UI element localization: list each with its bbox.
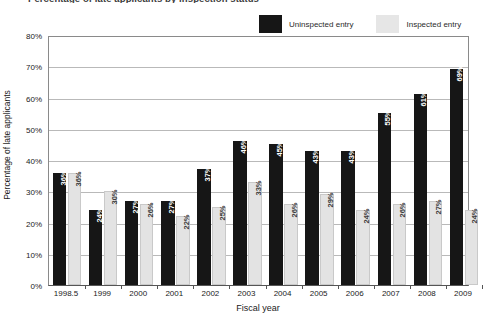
bar-value-label: 37% <box>204 167 212 182</box>
bar-value-label: 36% <box>60 170 68 185</box>
bar-uninspected: 27% <box>125 201 139 285</box>
bar-uninspected: 27% <box>161 201 175 285</box>
bar-value-label: 26% <box>147 202 155 217</box>
x-axis-tick-label: 2005 <box>310 289 328 298</box>
bar-inspected: 36% <box>68 173 82 286</box>
bar-value-label: 24% <box>471 208 479 223</box>
bar-value-label: 29% <box>327 193 335 208</box>
x-axis-tick-label: 2003 <box>238 289 256 298</box>
bar-inspected: 24% <box>465 210 479 285</box>
bars-layer: 36%36%24%30%27%26%27%22%37%25%46%33%45%2… <box>49 37 468 285</box>
bar-inspected: 22% <box>176 216 190 285</box>
bar-inspected: 25% <box>212 207 226 285</box>
legend-item-uninspected: Uninspected entry <box>259 14 353 34</box>
bar-uninspected: 24% <box>89 210 103 285</box>
bar-value-label: 33% <box>255 180 263 195</box>
bar-value-label: 30% <box>111 190 119 205</box>
bar-uninspected: 36% <box>53 173 67 286</box>
x-axis-tick-label: 2002 <box>201 289 219 298</box>
bar-inspected: 30% <box>104 191 118 285</box>
bar-inspected: 24% <box>356 210 370 285</box>
bar-value-label: 55% <box>384 111 392 126</box>
x-axis-tick-label: 2008 <box>418 289 436 298</box>
bar-inspected: 29% <box>320 194 334 285</box>
bar-value-label: 43% <box>312 148 320 163</box>
y-axis-tick-label: 80% <box>26 32 42 41</box>
bar-value-label: 46% <box>240 139 248 154</box>
y-axis-tick-label: 10% <box>26 250 42 259</box>
bar-value-label: 69% <box>456 67 464 82</box>
legend-swatch-uninspected-icon <box>259 15 282 33</box>
x-axis-tick-label: 2000 <box>129 289 147 298</box>
bar-inspected: 33% <box>248 182 262 285</box>
bar-uninspected: 69% <box>450 69 464 285</box>
chart-title: Percentage of late applicants by inspect… <box>28 0 448 3</box>
bar-value-label: 25% <box>219 205 227 220</box>
bar-uninspected: 46% <box>233 141 247 285</box>
bar-value-label: 24% <box>96 207 104 222</box>
bar-value-label: 61% <box>420 92 428 107</box>
x-axis-tick-label: 2009 <box>454 289 472 298</box>
y-axis-tick-label: 20% <box>26 219 42 228</box>
y-axis-tick-label: 50% <box>26 125 42 134</box>
bar-value-label: 26% <box>291 202 299 217</box>
y-axis-tick-label: 60% <box>26 94 42 103</box>
bar-value-label: 36% <box>75 171 83 186</box>
bar-uninspected: 43% <box>305 151 319 285</box>
bar-value-label: 45% <box>276 142 284 157</box>
bar-uninspected: 37% <box>197 169 211 285</box>
y-axis-title: Percentage of late applicants <box>0 0 14 290</box>
bar-inspected: 26% <box>140 204 154 285</box>
bar-uninspected: 43% <box>341 151 355 285</box>
chart-legend: Uninspected entry Inspected entry <box>259 14 461 34</box>
bar-value-label: 26% <box>399 202 407 217</box>
bar-value-label: 43% <box>348 148 356 163</box>
y-axis-tick-label: 70% <box>26 63 42 72</box>
bar-inspected: 26% <box>393 204 407 285</box>
y-axis-title-text: Percentage of late applicants <box>2 90 12 200</box>
bar-value-label: 24% <box>363 208 371 223</box>
bar-value-label: 27% <box>435 199 443 214</box>
bar-value-label: 22% <box>183 215 191 230</box>
bar-value-label: 27% <box>168 198 176 213</box>
y-axis-tick-label: 40% <box>26 157 42 166</box>
x-axis-tick-label: 2006 <box>346 289 364 298</box>
plot-wrapper: 0%10%20%30%40%50%60%70%80% 36%36%24%30%2… <box>14 36 469 286</box>
bar-uninspected: 45% <box>269 144 283 285</box>
x-axis-tick-label: 1998.5 <box>54 289 78 298</box>
legend-item-inspected: Inspected entry <box>376 14 461 34</box>
x-axis-tick-label: 2007 <box>382 289 400 298</box>
legend-label-uninspected: Uninspected entry <box>289 20 353 29</box>
y-axis-tick-labels: 0%10%20%30%40%50%60%70%80% <box>14 36 46 286</box>
bar-uninspected: 61% <box>414 94 428 285</box>
legend-label-inspected: Inspected entry <box>406 20 461 29</box>
bar-value-label: 27% <box>132 198 140 213</box>
y-axis-tick-label: 30% <box>26 188 42 197</box>
bar-inspected: 27% <box>429 201 443 285</box>
x-axis-tick-label: 2001 <box>165 289 183 298</box>
plot-area: 36%36%24%30%27%26%27%22%37%25%46%33%45%2… <box>48 36 469 286</box>
x-axis-tick-label: 1999 <box>93 289 111 298</box>
x-axis-title: Fiscal year <box>48 303 468 313</box>
legend-swatch-inspected-icon <box>376 15 399 33</box>
bar-inspected: 26% <box>284 204 298 285</box>
x-axis-tick-label: 2004 <box>274 289 292 298</box>
bar-uninspected: 55% <box>378 113 392 285</box>
y-axis-tick-label: 0% <box>30 282 42 291</box>
